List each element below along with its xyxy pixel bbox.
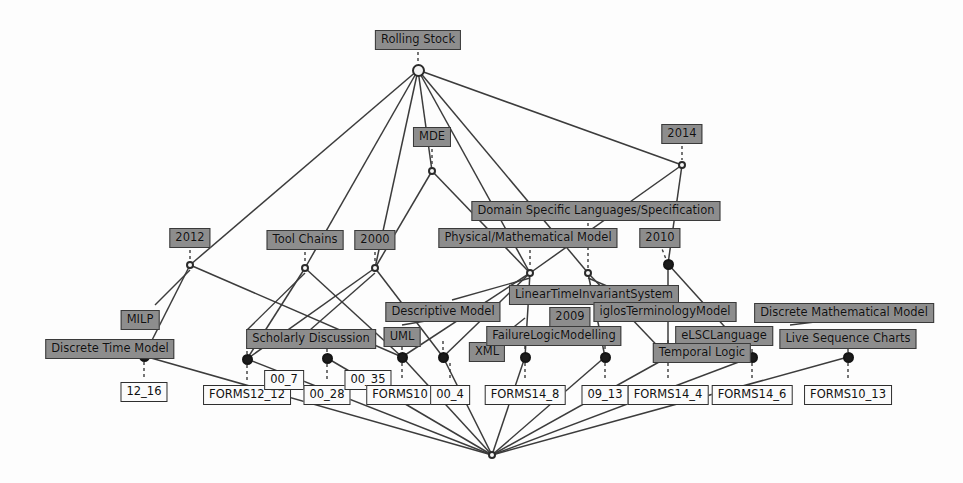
scholarly[interactable]: Scholarly Discussion xyxy=(246,329,376,349)
concept-node-n_mde[interactable] xyxy=(428,167,436,175)
iglos-term[interactable]: iglosTerminologyModel xyxy=(594,302,737,322)
obj-forms10-13[interactable]: FORMS10_13 xyxy=(804,385,892,405)
obj-00-28[interactable]: 00_28 xyxy=(303,385,350,405)
temporal-logic[interactable]: Temporal Logic xyxy=(653,343,751,363)
obj-forms14-6[interactable]: FORMS14_6 xyxy=(712,385,793,405)
year-2000[interactable]: 2000 xyxy=(354,230,395,250)
concept-node-n_lti1[interactable] xyxy=(526,269,534,277)
concept-node-bottom[interactable] xyxy=(488,451,496,459)
obj-09-13[interactable]: 09_13 xyxy=(581,385,628,405)
live-seq-charts[interactable]: Live Sequence Charts xyxy=(779,329,916,349)
uml[interactable]: UML xyxy=(384,327,421,347)
lattice-edge xyxy=(492,357,848,455)
failure-logic[interactable]: FailureLogicModelling xyxy=(486,326,621,346)
concept-node-n_b4[interactable] xyxy=(397,352,408,363)
obj-00-7[interactable]: 00_7 xyxy=(264,370,304,390)
year-2009[interactable]: 2009 xyxy=(549,307,590,327)
mde[interactable]: MDE xyxy=(413,127,451,147)
concept-node-n_b7[interactable] xyxy=(600,352,611,363)
obj-forms14-8[interactable]: FORMS14_8 xyxy=(485,385,566,405)
rolling-stock[interactable]: Rolling Stock xyxy=(375,30,461,50)
concept-node-n_b6[interactable] xyxy=(520,352,531,363)
dsl-spec[interactable]: Domain Specific Languages/Specification xyxy=(471,201,720,221)
obj-forms10[interactable]: FORMS10 xyxy=(366,385,434,405)
descriptive[interactable]: Descriptive Model xyxy=(385,302,500,322)
concept-node-n_2012[interactable] xyxy=(186,261,194,269)
concept-node-n_f101[interactable] xyxy=(663,259,674,270)
concept-node-n_2000[interactable] xyxy=(371,264,379,272)
concept-lattice-diagram: Rolling StockMDE2014Domain Specific Lang… xyxy=(0,0,963,483)
lattice-edge xyxy=(492,357,668,455)
obj-12-16[interactable]: 12_16 xyxy=(120,382,167,402)
concept-node-n_b5[interactable] xyxy=(438,352,449,363)
discrete-time[interactable]: Discrete Time Model xyxy=(45,339,174,359)
lattice-edge xyxy=(375,171,432,268)
year-2012[interactable]: 2012 xyxy=(169,228,210,248)
discrete-math[interactable]: Discrete Mathematical Model xyxy=(754,303,934,323)
milp[interactable]: MILP xyxy=(121,310,160,330)
year-2010[interactable]: 2010 xyxy=(639,228,680,248)
phys-math-model[interactable]: Physical/Mathematical Model xyxy=(438,228,617,248)
lattice-edge xyxy=(402,357,492,455)
obj-forms14-4[interactable]: FORMS14_4 xyxy=(628,385,709,405)
concept-node-top[interactable] xyxy=(412,64,425,77)
concept-node-n_lti2[interactable] xyxy=(584,269,592,277)
lattice-edge xyxy=(247,273,305,330)
concept-node-n_b2[interactable] xyxy=(242,354,253,365)
concept-node-n_b3[interactable] xyxy=(322,353,333,364)
obj-00-4[interactable]: 00_4 xyxy=(430,385,470,405)
concept-node-n_2014[interactable] xyxy=(678,161,686,169)
concept-node-n_b10[interactable] xyxy=(843,352,854,363)
year-2014[interactable]: 2014 xyxy=(661,124,702,144)
concept-node-n_tool[interactable] xyxy=(301,264,309,272)
lattice-edge xyxy=(492,357,752,455)
lattice-edge xyxy=(144,356,492,455)
tool-chains[interactable]: Tool Chains xyxy=(267,230,344,250)
